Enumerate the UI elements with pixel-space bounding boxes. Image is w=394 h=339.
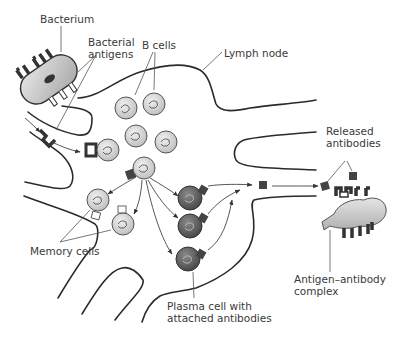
b-cell [143, 93, 165, 115]
label-bacterial-antigens-2: antigens [88, 48, 133, 60]
free-antigen [40, 130, 55, 146]
bacterium [9, 26, 89, 118]
label-released-antibodies-1: Released [326, 125, 374, 137]
plasma-cell [178, 185, 208, 210]
immune-response-diagram: Bacterium Bacterial antigens B cells Lym… [0, 0, 394, 339]
antigen-antibody-complex [322, 188, 386, 272]
b-cell-with-antigen [86, 139, 119, 161]
labels: Bacterium Bacterial antigens B cells Lym… [30, 13, 386, 324]
label-plasma-cell-1: Plasma cell with [167, 300, 252, 312]
label-bacterium: Bacterium [40, 13, 94, 25]
plasma-cells [176, 185, 208, 298]
b-cell [125, 125, 147, 147]
lymph-node-outline [24, 65, 316, 322]
label-memory-cells: Memory cells [30, 245, 100, 257]
released-antibody [259, 181, 267, 189]
memory-cell [112, 206, 134, 235]
label-lymph-node: Lymph node [224, 47, 288, 59]
antibody-release-arrows [208, 184, 318, 250]
memory-cell [87, 189, 109, 220]
b-cell [115, 97, 137, 119]
label-bacterial-antigens-1: Bacterial [88, 36, 135, 48]
label-released-antibodies-2: antibodies [326, 137, 381, 149]
label-complex-2: complex [294, 285, 339, 297]
released-antibody [320, 181, 330, 191]
released-antibody [349, 172, 357, 180]
b-cells [86, 93, 177, 180]
label-b-cells: B cells [142, 39, 176, 51]
label-plasma-cell-2: attached antibodies [167, 312, 272, 324]
plasma-cell [178, 213, 208, 238]
b-cell [155, 131, 177, 153]
activated-b-cell [125, 157, 155, 180]
plasma-cell [176, 247, 206, 271]
label-complex-1: Antigen–antibody [294, 273, 386, 285]
